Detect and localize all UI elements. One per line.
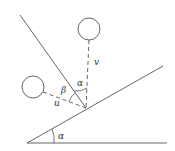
diagram-canvas: α α β u v — [0, 0, 175, 151]
label-u: u — [54, 98, 60, 108]
label-v: v — [94, 57, 99, 67]
top-ball — [78, 18, 100, 40]
label-beta: β — [60, 85, 66, 95]
alpha-top-arc — [74, 88, 87, 91]
incline-line — [27, 66, 163, 143]
label-alpha-base: α — [58, 131, 64, 141]
v-trajectory — [86, 40, 89, 108]
beta-arc — [69, 93, 75, 102]
label-alpha-top: α — [77, 78, 83, 88]
alpha-base-arc — [52, 129, 54, 143]
left-ball — [22, 76, 44, 98]
